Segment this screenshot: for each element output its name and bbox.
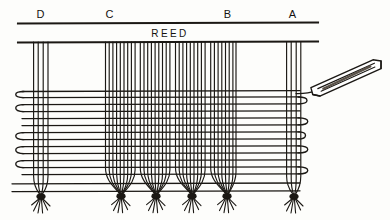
tassel bbox=[112, 193, 130, 213]
reed-bottom-rule bbox=[18, 42, 318, 43]
reed-top-rule bbox=[18, 23, 318, 24]
weft-line bbox=[22, 174, 300, 175]
selvedge-loop bbox=[298, 118, 308, 125]
weft-line bbox=[22, 118, 300, 119]
reed-label: REED bbox=[151, 28, 188, 39]
weft-line bbox=[22, 153, 300, 154]
label-c: C bbox=[105, 8, 114, 20]
weft-lines bbox=[12, 91, 300, 192]
diagram-canvas: D C B A REED bbox=[0, 0, 390, 220]
warp-thread bbox=[294, 42, 296, 196]
fringe-strand bbox=[227, 199, 228, 213]
weft-left-selvedge-loops bbox=[16, 92, 24, 168]
fringe-tassels bbox=[32, 193, 303, 213]
weft-line bbox=[22, 91, 300, 92]
weaving-loom-diagram: D C B A REED bbox=[0, 0, 390, 220]
selvedge-loop bbox=[298, 146, 308, 153]
selvedge-loop bbox=[16, 133, 24, 140]
weft-line bbox=[22, 125, 300, 126]
tassel bbox=[32, 194, 50, 214]
tassel bbox=[147, 193, 165, 213]
warp-group-a bbox=[287, 42, 301, 196]
tassel bbox=[183, 193, 201, 213]
weft-line bbox=[12, 183, 300, 184]
tassel bbox=[285, 194, 303, 214]
tassel bbox=[218, 193, 236, 213]
weft-line bbox=[22, 97, 300, 98]
weft-line bbox=[22, 146, 300, 147]
warp-thread bbox=[295, 42, 301, 196]
selvedge-loop bbox=[16, 161, 24, 168]
label-b: B bbox=[224, 8, 233, 20]
selvedge-loop bbox=[16, 105, 24, 112]
selvedge-loop bbox=[16, 147, 24, 154]
label-a: A bbox=[289, 8, 298, 20]
warp-thread bbox=[291, 42, 294, 196]
fringe-strand bbox=[41, 199, 42, 213]
weft-line bbox=[22, 111, 300, 112]
weft-line bbox=[22, 104, 300, 105]
weft-line bbox=[22, 167, 300, 168]
warp-thread bbox=[287, 42, 294, 196]
shuttle[interactable] bbox=[309, 57, 384, 98]
shuttle-bobbin-thread bbox=[322, 66, 371, 88]
fringe-strand bbox=[192, 199, 193, 213]
fringe-strand bbox=[294, 199, 295, 213]
selvedge-loop bbox=[298, 167, 308, 174]
weft-line bbox=[22, 139, 300, 140]
selvedge-loop bbox=[16, 92, 24, 98]
selvedge-loop bbox=[298, 97, 307, 104]
weft-line bbox=[22, 160, 300, 161]
weft-line bbox=[22, 132, 300, 133]
fringe-strand bbox=[156, 199, 157, 213]
selvedge-loop bbox=[298, 132, 306, 139]
label-d: D bbox=[36, 8, 45, 20]
fringe-strand bbox=[121, 199, 122, 213]
weft-right-selvedge-loops bbox=[298, 97, 308, 174]
